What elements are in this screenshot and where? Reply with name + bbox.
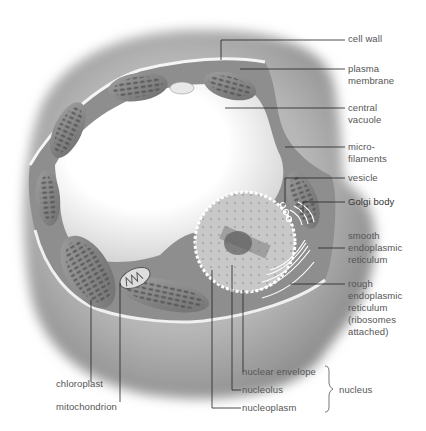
label-golgi-body: Golgi body xyxy=(348,196,394,208)
label-nucleus: nucleus xyxy=(339,384,372,396)
label-plasma-membrane: plasma membrane xyxy=(348,63,394,87)
label-nuclear-envelope: nuclear envelope xyxy=(242,366,316,378)
label-nucleoplasm: nucleoplasm xyxy=(242,402,296,414)
label-cell-wall: cell wall xyxy=(348,33,382,45)
label-nucleolus: nucleolus xyxy=(242,384,283,396)
label-vesicle: vesicle xyxy=(348,172,378,184)
label-rough-er: rough endoplasmic reticulum (ribosomes a… xyxy=(348,278,402,338)
label-chloroplast: chloroplast xyxy=(56,378,103,390)
label-mitochondrion: mitochondrion xyxy=(56,401,117,413)
plant-cell-diagram: cell wall plasma membrane central vacuol… xyxy=(0,0,426,431)
label-central-vacuole: central vacuole xyxy=(348,102,381,126)
label-smooth-er: smooth endoplasmic reticulum xyxy=(348,230,402,266)
label-microfilaments: micro- filaments xyxy=(348,141,387,165)
nucleus-shape xyxy=(195,192,295,292)
